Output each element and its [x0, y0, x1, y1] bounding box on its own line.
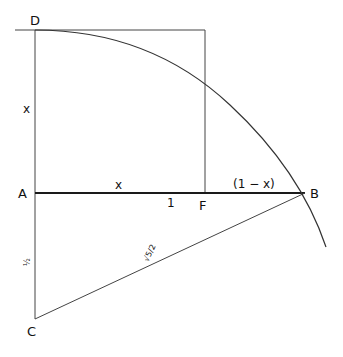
diagram-canvas: D A B C F x x 1 (1 − x) ½ √5/2: [0, 0, 343, 357]
segment-label-AC: ½: [23, 258, 32, 266]
segment-label-AB: 1: [167, 196, 175, 210]
segment-label-AF: x: [115, 178, 122, 192]
point-label-F: F: [199, 198, 206, 213]
point-label-B: B: [310, 186, 319, 201]
point-label-D: D: [30, 13, 40, 28]
point-label-A: A: [18, 186, 27, 201]
segment-label-CB: √5/2: [142, 243, 158, 263]
segment-label-FB: (1 − x): [233, 177, 275, 191]
segment-label-AD: x: [23, 102, 30, 116]
point-label-C: C: [27, 324, 36, 339]
arc: [35, 30, 326, 247]
hypotenuse-CB: [35, 193, 305, 319]
